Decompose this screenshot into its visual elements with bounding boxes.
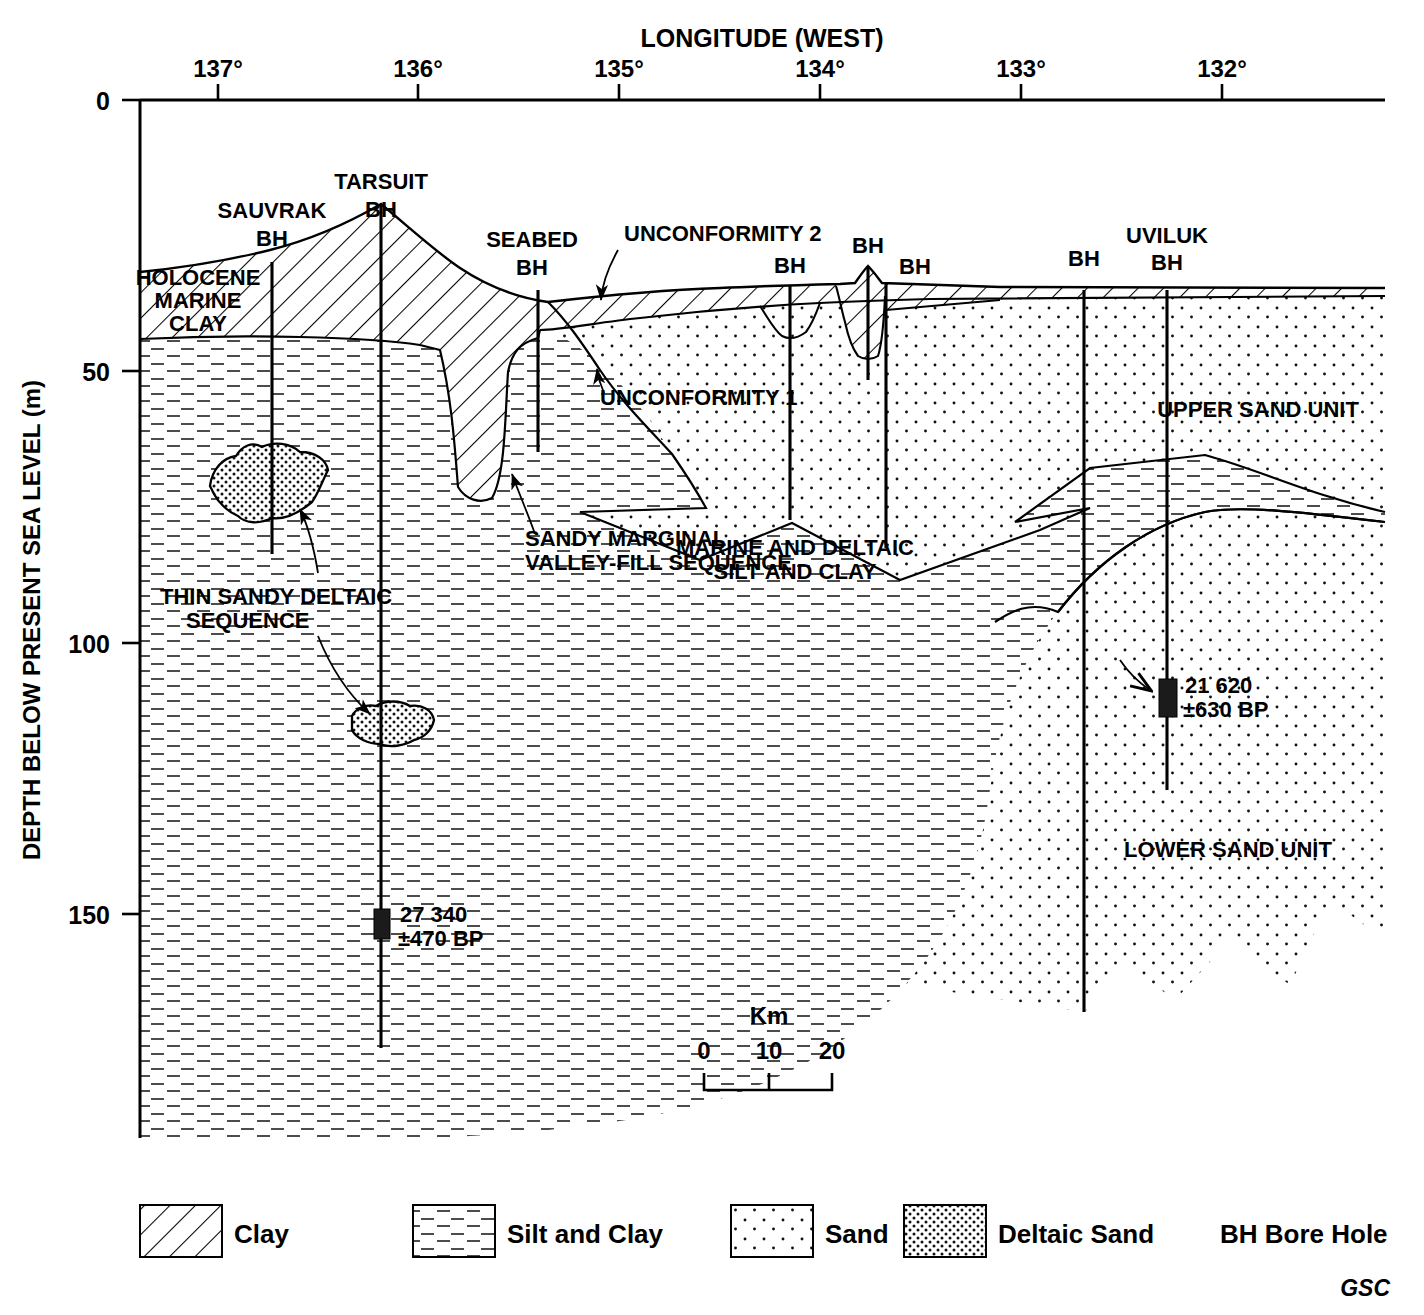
sample-marker-uviluk <box>1159 679 1177 717</box>
label-lower-sand-unit: LOWER SAND UNIT <box>1124 837 1332 862</box>
x-axis-ticks <box>218 84 1222 100</box>
legend-label-bore-hole: BH Bore Hole <box>1220 1219 1388 1249</box>
legend-swatch-silt-and-clay <box>413 1205 495 1257</box>
x-tick-label-136: 136° <box>393 55 443 82</box>
figure-root: LONGITUDE (WEST) 137° 136° 135° 134° 133… <box>0 0 1424 1315</box>
borehole-label-bh6: BH <box>899 254 931 279</box>
label-marine-deltaic-line1: MARINE AND DELTAIC <box>676 535 914 560</box>
borehole-label-bh7: BH <box>1068 246 1100 271</box>
borehole-label-uviluk-name: UVILUK <box>1126 223 1208 248</box>
label-unconformity-1: UNCONFORMITY 1 <box>600 385 798 410</box>
borehole-label-uviluk-bh: BH <box>1151 250 1183 275</box>
date-tarsuit-error: ±470 BP <box>398 926 483 951</box>
y-axis-title: DEPTH BELOW PRESENT SEA LEVEL (m) <box>18 380 45 860</box>
legend-label-deltaic-sand: Deltaic Sand <box>998 1219 1154 1249</box>
scale-bar-tick-20: 20 <box>819 1037 846 1064</box>
credit-gsc: GSC <box>1340 1275 1390 1301</box>
x-tick-label-132: 132° <box>1197 55 1247 82</box>
label-holocene-line3: CLAY <box>169 311 227 336</box>
y-tick-label-0: 0 <box>96 87 110 115</box>
legend-label-clay: Clay <box>234 1219 289 1249</box>
borehole-label-seabed-name: SEABED <box>486 227 578 252</box>
y-tick-label-50: 50 <box>82 358 110 386</box>
borehole-label-tarsuit-name: TARSUIT <box>334 169 428 194</box>
date-uviluk-error: ±630 BP <box>1183 697 1268 722</box>
legend: Clay Silt and Clay Sand Deltaic Sand BH … <box>140 1205 1388 1257</box>
borehole-label-sauvrak-name: SAUVRAK <box>218 198 327 223</box>
x-tick-label-133: 133° <box>996 55 1046 82</box>
legend-label-sand: Sand <box>825 1219 889 1249</box>
sample-marker-tarsuit <box>374 909 390 939</box>
y-axis-ticks <box>122 100 140 914</box>
borehole-label-sauvrak-bh: BH <box>256 226 288 251</box>
label-thin-sandy-line2: SEQUENCE <box>186 608 309 633</box>
borehole-label-seabed-bh: BH <box>516 255 548 280</box>
date-uviluk-value: 21 620 <box>1185 673 1252 698</box>
label-thin-sandy-line1: THIN SANDY DELTAIC <box>160 584 392 609</box>
x-tick-label-134: 134° <box>795 55 845 82</box>
legend-swatch-sand <box>731 1205 813 1257</box>
y-tick-label-150: 150 <box>68 901 110 929</box>
leader-unconformity-2 <box>601 250 618 300</box>
date-tarsuit-value: 27 340 <box>400 902 467 927</box>
label-upper-sand-unit: UPPER SAND UNIT <box>1157 397 1359 422</box>
x-axis-title: LONGITUDE (WEST) <box>640 24 883 52</box>
label-holocene-line2: MARINE <box>155 288 242 313</box>
label-marine-deltaic-line2: SILT AND CLAY <box>714 559 877 584</box>
legend-label-silt-and-clay: Silt and Clay <box>507 1219 664 1249</box>
borehole-label-tarsuit-bh: BH <box>365 197 397 222</box>
scale-bar-tick-0: 0 <box>697 1037 710 1064</box>
x-tick-label-135: 135° <box>594 55 644 82</box>
y-tick-label-100: 100 <box>68 630 110 658</box>
label-holocene-line1: HOLOCENE <box>136 265 261 290</box>
x-tick-label-137: 137° <box>193 55 243 82</box>
borehole-label-bh4: BH <box>774 253 806 278</box>
scale-bar-tick-10: 10 <box>756 1037 783 1064</box>
legend-swatch-deltaic-sand <box>904 1205 986 1257</box>
label-unconformity-2: UNCONFORMITY 2 <box>624 221 822 246</box>
scale-bar-unit: Km <box>750 1002 789 1029</box>
cross-section-figure: LONGITUDE (WEST) 137° 136° 135° 134° 133… <box>0 0 1424 1315</box>
legend-swatch-clay <box>140 1205 222 1257</box>
borehole-label-bh5: BH <box>852 233 884 258</box>
